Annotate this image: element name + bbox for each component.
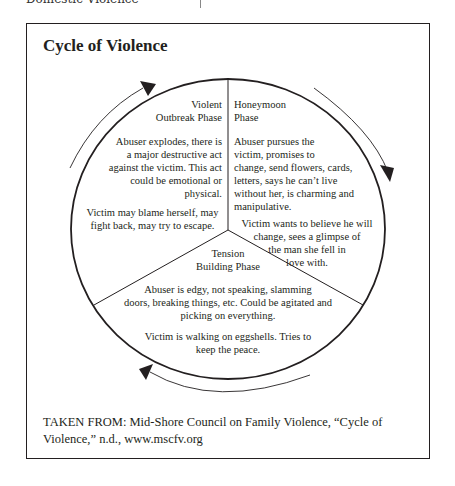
- text-line: Victim is walking on eggshells. Tries to: [118, 330, 338, 343]
- text-line: Abuser is edgy, not speaking, slamming: [98, 283, 358, 296]
- arrow-bottom: [150, 372, 310, 392]
- text-line: change, send flowers, cards,: [234, 161, 384, 174]
- text-line: physical.: [76, 187, 222, 200]
- text-line: could be emotional or: [76, 174, 222, 187]
- honeymoon-phase-title: Honeymoon Phase: [234, 98, 354, 124]
- tension-phase-title: Tension Building Phase: [158, 247, 298, 273]
- text-line: keep the peace.: [118, 343, 338, 356]
- text-line: fight back, may try to escape.: [80, 219, 225, 232]
- text-line: letters, says he can’t live: [234, 174, 384, 187]
- text-line: change, sees a glimpse of: [234, 230, 380, 243]
- text-line: Phase: [234, 111, 354, 124]
- text-line: Tension: [158, 247, 298, 260]
- honeymoon-phase-abuser: Abuser pursues the victim, promises to c…: [234, 135, 384, 213]
- tension-phase-abuser: Abuser is edgy, not speaking, slamming d…: [98, 283, 358, 322]
- violent-phase-victim: Victim may blame herself, may fight back…: [80, 206, 225, 232]
- text-line: picking on everything.: [98, 309, 358, 322]
- text-line: Violent: [110, 98, 222, 111]
- figure-source-citation: TAKEN FROM: Mid-Shore Council on Family …: [43, 414, 403, 448]
- text-line: Victim wants to believe he will: [234, 217, 380, 230]
- text-line: Outbreak Phase: [110, 111, 222, 124]
- text-line: Abuser pursues the: [234, 135, 384, 148]
- text-line: Building Phase: [158, 260, 298, 273]
- text-line: against the victim. This act: [76, 161, 222, 174]
- text-line: Victim may blame herself, may: [80, 206, 225, 219]
- violent-phase-abuser: Abuser explodes, there is a major destru…: [76, 135, 222, 200]
- arrowhead-bottom-icon: [139, 364, 153, 380]
- text-line: Honeymoon: [234, 98, 354, 111]
- text-line: Abuser explodes, there is: [76, 135, 222, 148]
- violent-phase-title: Violent Outbreak Phase: [110, 98, 222, 124]
- text-line: without her, is charming and: [234, 187, 384, 200]
- text-line: manipulative.: [234, 200, 384, 213]
- text-line: victim, promises to: [234, 148, 384, 161]
- text-line: doors, breaking things, etc. Could be ag…: [98, 296, 358, 309]
- text-line: a major destructive act: [76, 148, 222, 161]
- tension-phase-victim: Victim is walking on eggshells. Tries to…: [118, 330, 338, 356]
